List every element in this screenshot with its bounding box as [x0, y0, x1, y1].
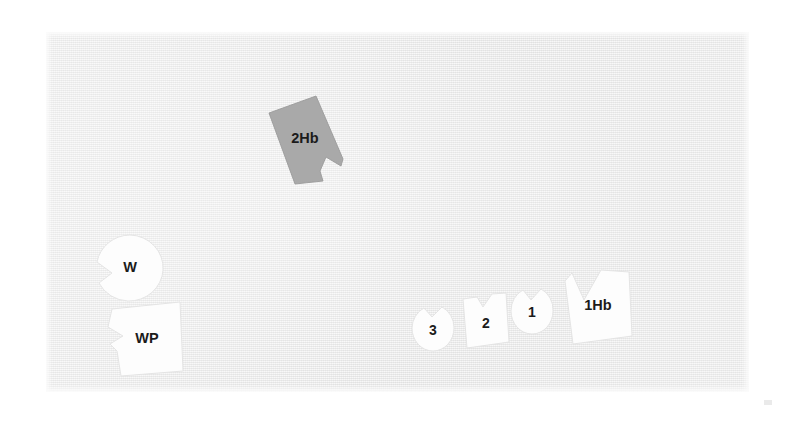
- shape-2[interactable]: 2: [463, 293, 509, 348]
- shape-2hb[interactable]: 2Hb: [269, 96, 343, 184]
- shape-wp[interactable]: WP: [108, 302, 183, 376]
- shape-2-label: 2: [482, 315, 490, 331]
- shapes-layer: 2Hb W WP 3 2: [0, 0, 795, 422]
- shape-wp-label: WP: [135, 330, 159, 346]
- shape-w-label: W: [123, 259, 137, 275]
- shape-1hb[interactable]: 1Hb: [565, 270, 632, 344]
- shape-w[interactable]: W: [97, 235, 163, 301]
- shape-3-label: 3: [429, 322, 437, 338]
- shape-2hb-label: 2Hb: [291, 130, 319, 146]
- scan-speck: [764, 400, 772, 405]
- figure-plate: 2Hb W WP 3 2: [0, 0, 795, 422]
- shape-1hb-label: 1Hb: [584, 297, 612, 313]
- shape-3[interactable]: 3: [412, 307, 454, 351]
- shape-1[interactable]: 1: [511, 289, 553, 334]
- shape-1-label: 1: [528, 304, 536, 320]
